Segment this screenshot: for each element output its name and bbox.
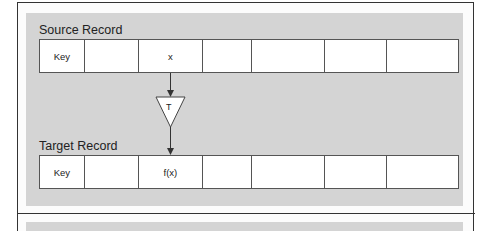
target-cell bbox=[325, 156, 388, 188]
transform-label: T bbox=[166, 102, 172, 112]
target-record: Key f(x) bbox=[39, 155, 459, 189]
target-cell bbox=[85, 156, 139, 188]
arrow-down-icon bbox=[167, 90, 174, 97]
target-cell-key: Key bbox=[40, 156, 85, 188]
target-cell bbox=[203, 156, 252, 188]
arrow-down-icon bbox=[167, 148, 174, 155]
target-cell bbox=[387, 156, 458, 188]
transform-flow bbox=[0, 0, 486, 231]
target-cell bbox=[252, 156, 325, 188]
target-record-label: Target Record bbox=[39, 139, 118, 153]
target-cell-fx: f(x) bbox=[139, 156, 204, 188]
